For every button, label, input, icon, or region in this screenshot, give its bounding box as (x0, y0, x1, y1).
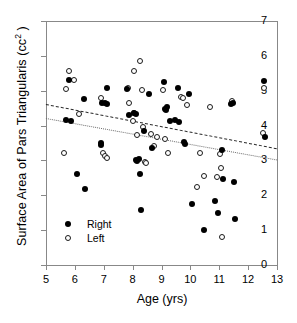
y-tick-label-7: 7 (227, 15, 267, 26)
y-axis-title: Surface Area of Pars Triangularis (cc2 ) (13, 11, 29, 261)
x-tick (162, 265, 163, 270)
data-point-right (104, 85, 110, 91)
data-point-left (143, 160, 149, 166)
data-point-left (180, 95, 186, 101)
axis-left-spine (46, 21, 47, 265)
y-tick (41, 160, 46, 161)
y-tick-label-2: 2 (227, 189, 267, 200)
x-tick-label-12: 12 (233, 274, 263, 285)
y-tick (41, 230, 46, 231)
data-point-left (104, 155, 110, 161)
data-point-right (186, 91, 192, 97)
y-axis-title-superscript: 2 (13, 34, 23, 39)
data-point-right (182, 141, 188, 147)
data-point-right (149, 145, 155, 151)
legend-item-left: Left (61, 231, 112, 245)
data-point-right (82, 186, 88, 192)
data-point-left (66, 68, 72, 74)
data-point-right (215, 210, 221, 216)
data-point-right (262, 134, 268, 140)
data-point-left (76, 111, 82, 117)
data-point-left (261, 85, 267, 91)
x-tick (219, 265, 220, 270)
data-point-left (197, 150, 203, 156)
data-point-right (164, 104, 170, 110)
data-point-right (231, 179, 237, 185)
data-point-left (218, 165, 224, 171)
y-tick-label-6: 6 (227, 50, 267, 61)
data-point-right (98, 142, 104, 148)
data-point-left (137, 58, 143, 64)
plot-area: 01234567 5678910111213 RightLeft (46, 21, 277, 265)
x-tick-label-13: 13 (262, 274, 292, 285)
data-point-left (71, 77, 77, 83)
y-tick (41, 195, 46, 196)
data-point-left (61, 150, 67, 156)
data-point-left (162, 136, 168, 142)
x-tick-label-11: 11 (204, 274, 234, 285)
data-point-right (189, 201, 195, 207)
legend-label-right: Right (87, 218, 112, 230)
data-point-left (165, 150, 171, 156)
data-point-right (161, 79, 167, 85)
scatter-chart-figure: Surface Area of Pars Triangularis (cc2 )… (0, 0, 297, 323)
data-point-left (139, 87, 145, 93)
axis-right-spine (277, 21, 278, 266)
legend-item-right: Right (61, 217, 112, 231)
x-tick (46, 265, 47, 270)
data-point-left (63, 86, 69, 92)
data-point-right (66, 77, 72, 83)
x-tick-label-6: 6 (60, 274, 90, 285)
y-tick (41, 91, 46, 92)
data-point-right (141, 128, 147, 134)
data-point-right (133, 111, 139, 117)
data-point-left (131, 68, 137, 74)
x-tick-label-5: 5 (31, 274, 61, 285)
data-point-right (146, 91, 152, 97)
data-point-left (184, 102, 190, 108)
x-axis-title: Age (yrs) (46, 292, 278, 306)
data-point-left (126, 100, 132, 106)
data-point-left (207, 104, 213, 110)
data-point-left (134, 132, 140, 138)
y-tick-label-4: 4 (227, 120, 267, 131)
data-point-right (68, 118, 74, 124)
x-tick-label-10: 10 (175, 274, 205, 285)
x-tick (133, 265, 134, 270)
x-tick (75, 265, 76, 270)
data-point-right (175, 85, 181, 91)
data-point-right (232, 216, 238, 222)
chart-legend: RightLeft (61, 217, 112, 245)
x-tick-label-8: 8 (118, 274, 148, 285)
y-tick (41, 56, 46, 57)
data-point-left (201, 173, 207, 179)
x-tick-label-9: 9 (147, 274, 177, 285)
data-point-right (230, 100, 236, 106)
data-point-right (201, 227, 207, 233)
x-tick (277, 265, 278, 270)
data-point-left (194, 184, 200, 190)
data-point-left (160, 87, 166, 93)
y-axis-title-tail: ) (15, 26, 29, 34)
data-point-left (148, 131, 154, 137)
data-point-right (74, 171, 80, 177)
x-tick (190, 265, 191, 270)
y-tick-label-0: 0 (227, 259, 267, 270)
y-tick (41, 126, 46, 127)
data-point-right (219, 147, 225, 153)
data-point-right (138, 207, 144, 213)
filled-circle-icon (61, 221, 75, 227)
x-tick (248, 265, 249, 270)
data-point-right (81, 96, 87, 102)
data-point-right (124, 86, 130, 92)
x-tick-label-7: 7 (89, 274, 119, 285)
y-tick (41, 21, 46, 22)
data-point-right (176, 119, 182, 125)
x-tick (104, 265, 105, 270)
data-point-left (219, 234, 225, 240)
y-axis-title-base: Surface Area of Pars Triangularis (cc (15, 39, 29, 246)
data-point-left (130, 118, 136, 124)
data-point-right (220, 176, 226, 182)
data-point-right (137, 171, 143, 177)
y-tick-label-1: 1 (227, 224, 267, 235)
